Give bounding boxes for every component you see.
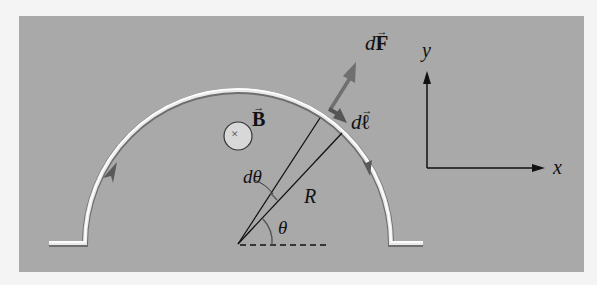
dtheta-label: dθ — [243, 167, 262, 186]
y-axis-label: y — [422, 40, 431, 60]
field-label: →B — [252, 109, 265, 129]
coordinate-axes — [427, 80, 536, 168]
vector-mark: → — [362, 105, 370, 116]
x-axis-arrowhead-icon — [532, 164, 545, 172]
theta-arc — [263, 219, 272, 245]
semicircle-wire-diagram — [0, 0, 597, 285]
vector-mark: → — [252, 102, 265, 113]
vector-mark: → — [376, 26, 389, 37]
y-axis-arrowhead-icon — [423, 71, 431, 84]
length-element-label: d→ℓ — [351, 112, 369, 133]
force-arrow — [330, 62, 356, 110]
field-cross-symbol: × — [231, 127, 238, 140]
x-axis-label: x — [553, 157, 562, 177]
force-label: d→F — [365, 33, 388, 54]
dtheta-arc — [270, 193, 277, 200]
theta-label: θ — [278, 218, 287, 237]
radius-label: R — [304, 186, 316, 206]
